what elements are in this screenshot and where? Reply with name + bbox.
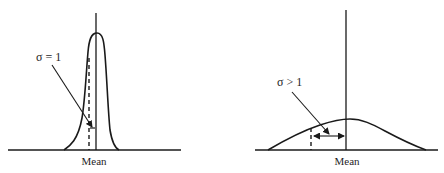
bell-curve-narrow [64, 33, 119, 150]
mean-label-wide: Mean [334, 156, 359, 167]
mean-label-narrow: Mean [81, 156, 106, 167]
sigma-label-narrow: σ = 1 [36, 51, 61, 63]
bell-curve-wide [268, 119, 426, 150]
standard-deviation-diagram [0, 0, 444, 173]
panel-narrow-distribution [8, 13, 181, 150]
sigma-label-wide: σ > 1 [277, 76, 302, 88]
